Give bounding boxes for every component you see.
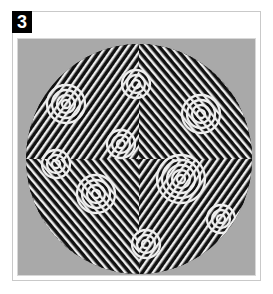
figure-label-badge: 3	[12, 11, 32, 33]
labyrinth-pattern-disc	[26, 44, 252, 274]
labyrinth-pattern-image	[26, 44, 252, 274]
